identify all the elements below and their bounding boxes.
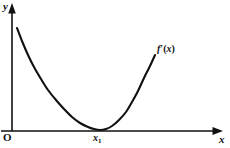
origin-label: O (3, 132, 12, 143)
derivative-curve (17, 28, 155, 130)
curve-label: f′(x) (157, 44, 175, 54)
x1-tick-label: x1 (93, 133, 102, 143)
x1-tick-subscript: 1 (98, 137, 102, 145)
y-axis-arrow-icon (8, 3, 16, 14)
y-axis-label: y (3, 1, 8, 12)
curve-label-arg: (x) (163, 43, 175, 54)
curve-label-variable: x (167, 43, 172, 54)
derivative-graph-figure (0, 0, 230, 148)
x-axis-label: x (219, 134, 225, 145)
